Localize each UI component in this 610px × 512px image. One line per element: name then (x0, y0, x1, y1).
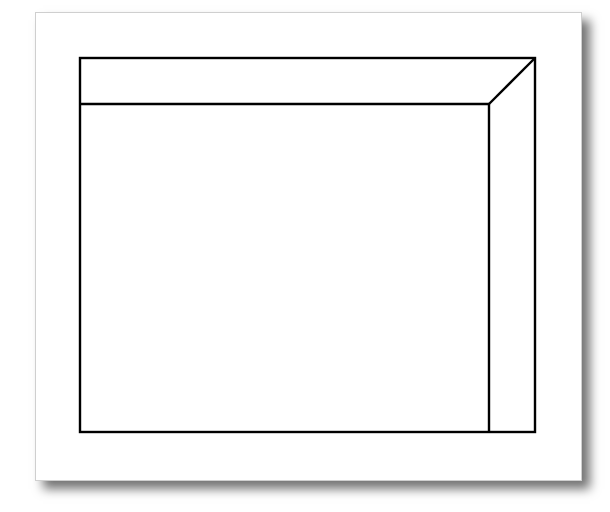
outer-frame-rect (80, 58, 535, 432)
window-frame-diagram (0, 0, 610, 512)
corner-miter-line (489, 58, 535, 104)
